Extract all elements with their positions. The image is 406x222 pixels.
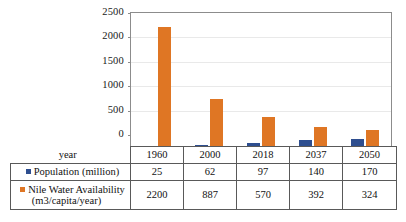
bar-water-2000	[210, 99, 223, 148]
table-cell: 62	[184, 164, 237, 181]
series-label-population: Population (million)	[34, 166, 119, 177]
bars-layer	[131, 13, 391, 148]
y-tick-label: 2000	[102, 31, 124, 42]
series-label-water-line1: Nile Water Availability	[28, 184, 125, 195]
table-cell: 2200	[131, 181, 184, 210]
table-cell: 97	[237, 164, 290, 181]
table-header-row: year 1960 2000 2018 2037 2050	[11, 147, 397, 164]
y-tick-label: 1500	[102, 56, 124, 67]
y-tick-label: 0	[119, 129, 124, 140]
data-table: year 1960 2000 2018 2037 2050 Population…	[10, 146, 397, 210]
table-cell: 140	[290, 164, 343, 181]
bar-group-1960	[131, 13, 183, 148]
bar-water-1960	[158, 27, 171, 148]
year-header-cell: 1960	[131, 147, 184, 164]
y-tick-label: 2500	[102, 7, 124, 18]
legend-row-water: Nile Water Availability(m3/capita/year)	[11, 181, 131, 210]
year-header-cell: 2000	[184, 147, 237, 164]
table-cell: 392	[290, 181, 343, 210]
bar-group-2000	[183, 13, 235, 148]
bar-group-2037	[287, 13, 339, 148]
year-header-cell: 2050	[343, 147, 397, 164]
y-axis: 2500 2000 1500 1000 500 0	[60, 0, 128, 158]
series-label-water-line2: (m3/capita/year)	[15, 195, 130, 206]
year-header-cell: 2018	[237, 147, 290, 164]
y-tick-label: 1000	[102, 80, 124, 91]
legend-swatch-population-icon	[26, 169, 31, 174]
bar-group-2018	[235, 13, 287, 148]
plot-area	[130, 12, 392, 149]
table-cell: 25	[131, 164, 184, 181]
table-cell: 324	[343, 181, 397, 210]
table-cell: 170	[343, 164, 397, 181]
plot-wrapper: 2500 2000 1500 1000 500 0	[0, 0, 406, 158]
table-row: Nile Water Availability(m3/capita/year) …	[11, 181, 397, 210]
table-row: Population (million) 25 62 97 140 170	[11, 164, 397, 181]
bar-water-2018	[262, 117, 275, 148]
bar-water-2037	[314, 127, 327, 149]
table-cell: 570	[237, 181, 290, 210]
bar-group-2050	[339, 13, 391, 148]
chart-figure: 2500 2000 1500 1000 500 0	[0, 0, 406, 222]
year-header-cell: 2037	[290, 147, 343, 164]
legend-row-population: Population (million)	[11, 164, 131, 181]
y-tick-label: 500	[108, 104, 124, 115]
legend-swatch-water-icon	[20, 187, 25, 192]
table-cell: 887	[184, 181, 237, 210]
x-axis-title: year	[11, 147, 131, 164]
